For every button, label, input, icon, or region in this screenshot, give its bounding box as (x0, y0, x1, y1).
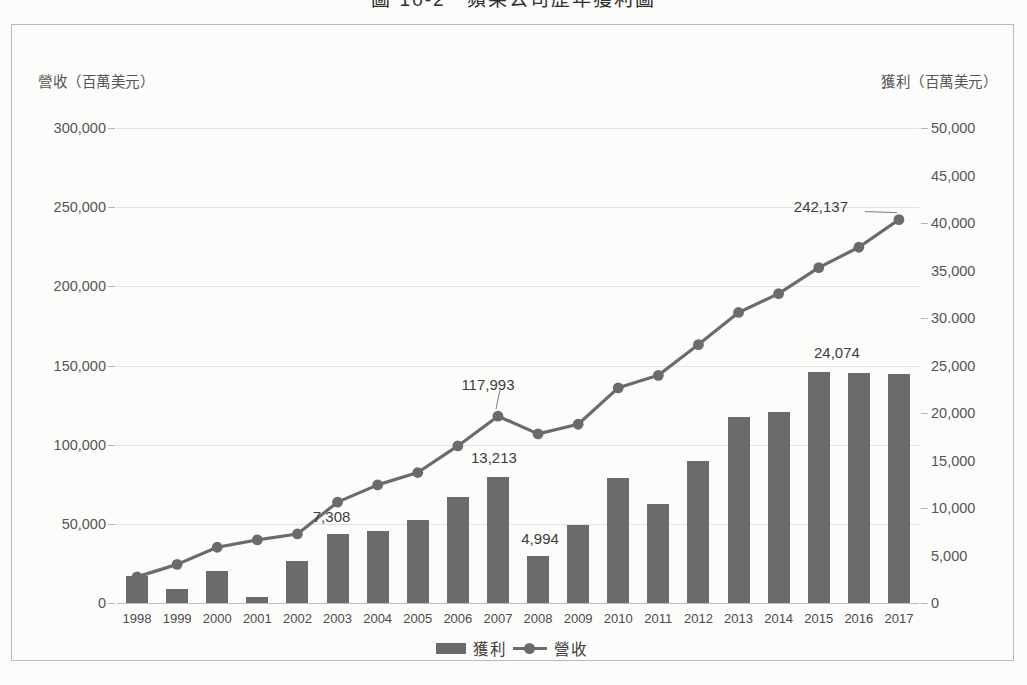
x-tick-label: 2016 (844, 611, 873, 626)
right-tick-label: 35,000 (931, 263, 975, 279)
right-axis-title: 獲利（百萬美元） (881, 70, 997, 91)
data-point-marker (412, 467, 423, 478)
left-tick-mark (108, 286, 115, 287)
data-label: 13,213 (471, 449, 517, 466)
revenue-line (137, 220, 899, 577)
legend-bar-label: 獲利 (473, 637, 507, 659)
page-title: 圖 10-2 蘋果公司歷年獲利圖 (0, 0, 1027, 14)
data-point-marker (853, 242, 864, 253)
x-tick-label: 2006 (443, 611, 472, 626)
x-tick-label: 2012 (684, 611, 713, 626)
right-tick-label: 25,000 (931, 358, 975, 374)
x-tick-label: 2015 (804, 611, 833, 626)
right-tick-label: 0 (931, 595, 939, 611)
x-tick-label: 2013 (724, 611, 753, 626)
right-tick-label: 10,000 (931, 500, 975, 516)
x-tick-label: 2007 (483, 611, 512, 626)
right-tick-mark (921, 128, 928, 129)
label-leader-lines (496, 212, 897, 410)
left-tick-mark (108, 603, 115, 604)
left-tick-label: 0 (98, 595, 106, 611)
data-point-marker (493, 411, 504, 422)
leader-line (865, 212, 897, 213)
x-tick-label: 2008 (524, 611, 553, 626)
data-point-marker (132, 571, 143, 582)
data-label: 24,074 (814, 344, 860, 361)
data-point-marker (773, 288, 784, 299)
x-tick-label: 2002 (283, 611, 312, 626)
x-tick-label: 2014 (764, 611, 793, 626)
plot-area: 300,000250,000200,000150,000100,00050,00… (117, 128, 919, 603)
left-tick-label: 200,000 (54, 278, 106, 294)
x-tick-label: 1998 (123, 611, 152, 626)
x-tick-label: 2010 (604, 611, 633, 626)
data-point-marker (894, 214, 905, 225)
data-point-marker (533, 429, 544, 440)
left-tick-label: 100,000 (54, 437, 106, 453)
right-tick-label: 50,000 (931, 120, 975, 136)
page-title-text: 圖 10-2 蘋果公司歷年獲利圖 (371, 0, 655, 10)
x-tick-label: 2017 (884, 611, 913, 626)
x-tick-label: 2005 (403, 611, 432, 626)
data-point-marker (573, 419, 584, 430)
left-tick-label: 50,000 (62, 516, 106, 532)
data-label: 117,993 (461, 376, 514, 393)
data-point-marker (653, 370, 664, 381)
data-point-marker (452, 441, 463, 452)
x-tick-label: 2009 (564, 611, 593, 626)
chart-frame: 營收（百萬美元） 獲利（百萬美元） 300,000250,000200,0001… (11, 24, 1014, 661)
left-tick-mark (108, 445, 115, 446)
right-tick-label: 15,000 (931, 453, 975, 469)
data-point-marker (292, 529, 303, 540)
left-axis-title: 營收（百萬美元） (38, 70, 154, 91)
data-point-marker (252, 534, 263, 545)
legend-bar-swatch (436, 643, 466, 654)
data-label: 4,994 (521, 530, 559, 547)
right-tick-mark (921, 508, 928, 509)
x-tick-label: 2011 (644, 611, 672, 626)
data-point-marker (613, 382, 624, 393)
chart-legend: 獲利 營收 (12, 637, 1013, 659)
right-tick-mark (921, 223, 928, 224)
left-tick-mark (108, 524, 115, 525)
x-tick-label: 1999 (163, 611, 192, 626)
right-tick-label: 45,000 (931, 168, 975, 184)
x-tick-label: 2003 (323, 611, 352, 626)
left-tick-mark (108, 207, 115, 208)
right-tick-mark (921, 413, 928, 414)
gridline (117, 603, 919, 604)
data-point-marker (372, 479, 383, 490)
x-tick-label: 2000 (203, 611, 232, 626)
x-tick-label: 2001 (243, 611, 272, 626)
data-point-marker (332, 497, 343, 508)
legend-line-label: 營收 (554, 637, 588, 659)
data-point-marker (693, 339, 704, 350)
left-tick-label: 250,000 (54, 199, 106, 215)
right-tick-label: 30.000 (931, 310, 975, 326)
data-point-marker (813, 262, 824, 273)
right-tick-mark (921, 603, 928, 604)
left-tick-mark (108, 128, 115, 129)
data-label: 242,137 (794, 198, 848, 215)
left-tick-label: 150,000 (54, 358, 106, 374)
left-tick-mark (108, 366, 115, 367)
data-point-marker (212, 542, 223, 553)
right-tick-label: 5,000 (931, 548, 967, 564)
x-tick-label: 2004 (363, 611, 392, 626)
right-tick-mark (921, 318, 928, 319)
data-point-marker (172, 559, 183, 570)
left-tick-label: 300,000 (54, 120, 106, 136)
legend-line-swatch (513, 642, 547, 654)
right-tick-label: 40,000 (931, 215, 975, 231)
data-label: 7,308 (313, 508, 351, 525)
revenue-markers (132, 214, 905, 582)
right-tick-label: 20,000 (931, 405, 975, 421)
data-point-marker (733, 307, 744, 318)
